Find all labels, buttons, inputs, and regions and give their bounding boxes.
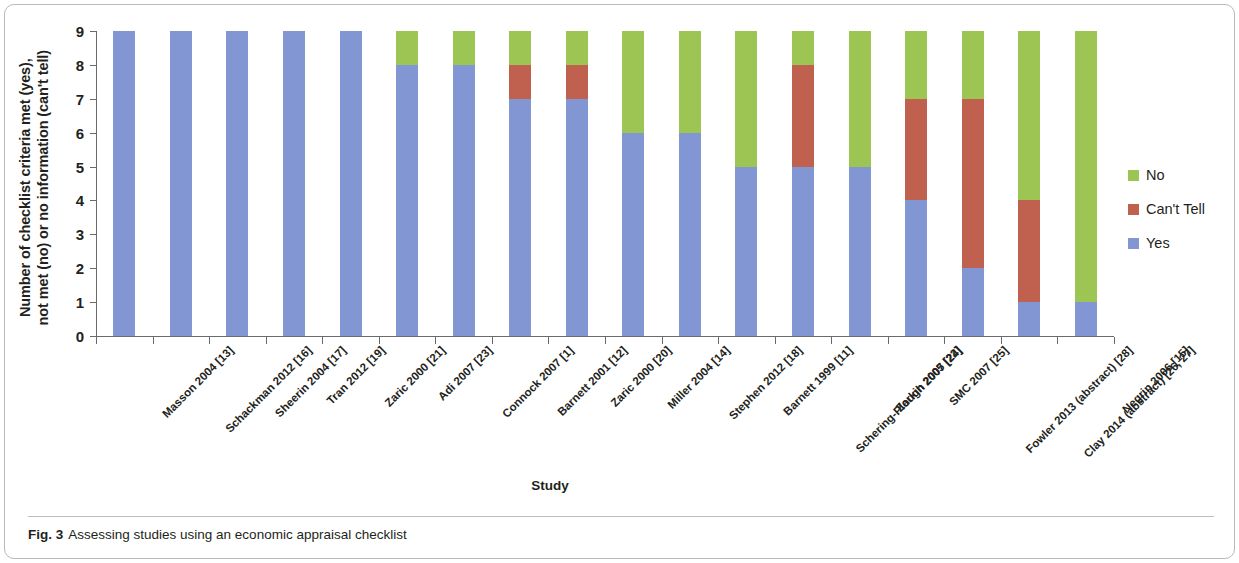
y-axis-tick-label: 1 <box>54 294 84 311</box>
bar-segment <box>1018 31 1040 200</box>
bar-segment <box>679 31 701 133</box>
x-axis-tick <box>492 337 493 344</box>
x-axis-tick <box>435 337 436 344</box>
bar-segment <box>566 65 588 99</box>
bar-segment <box>396 65 418 336</box>
x-axis-tick-labels: Masson 2004 [13]Schackman 2012 [16]Sheer… <box>96 344 1196 484</box>
bar-segment <box>113 31 135 336</box>
bar-column <box>226 31 248 336</box>
bar-segment <box>962 268 984 336</box>
x-axis-tick <box>209 337 210 344</box>
bar-segment <box>1018 200 1040 302</box>
y-axis-title-line2: not met (no) or no information (can't te… <box>35 23 53 353</box>
bar-column <box>905 31 927 336</box>
bar-segment <box>1018 302 1040 336</box>
x-axis-title: Study <box>0 478 1100 493</box>
bar-segment <box>622 31 644 133</box>
x-axis-tick <box>944 337 945 344</box>
y-axis-tick-label: 3 <box>54 226 84 243</box>
x-axis-tick <box>266 337 267 344</box>
bar-column <box>1075 31 1097 336</box>
bar-segment <box>735 167 757 336</box>
legend-label: Can't Tell <box>1146 201 1205 217</box>
legend-item[interactable]: Yes <box>1128 226 1233 260</box>
x-axis-tick <box>322 337 323 344</box>
bar-column <box>1018 31 1040 336</box>
figure-container: Number of checklist criteria met (yes), … <box>0 0 1239 563</box>
x-axis-tick <box>1057 337 1058 344</box>
bar-segment <box>905 200 927 336</box>
x-axis-tick <box>718 337 719 344</box>
bar-column <box>340 31 362 336</box>
bar-column <box>679 31 701 336</box>
caption-label: Fig. 3 <box>28 527 63 542</box>
bar-column <box>113 31 135 336</box>
x-axis-tick-label: Miller 2004 [14] <box>665 344 732 411</box>
x-axis-tick <box>662 337 663 344</box>
legend-swatch-icon <box>1128 170 1139 181</box>
bar-segment <box>905 99 927 201</box>
bar-segment <box>679 133 701 336</box>
bar-segment <box>509 99 531 336</box>
legend-label: Yes <box>1146 235 1170 251</box>
bar-segment <box>962 99 984 268</box>
y-axis-tick-label: 5 <box>54 158 84 175</box>
bar-segment <box>1075 302 1097 336</box>
bar-segment <box>792 31 814 65</box>
x-axis-tick <box>96 337 97 344</box>
x-axis-tick <box>153 337 154 344</box>
bar-segment <box>396 31 418 65</box>
bar-segment <box>566 99 588 336</box>
y-axis-tick-label: 9 <box>54 23 84 40</box>
bar-column <box>792 31 814 336</box>
x-axis-tick <box>775 337 776 344</box>
caption-divider <box>28 516 1214 517</box>
y-axis-tick-label: 6 <box>54 124 84 141</box>
bars-layer <box>96 31 1114 336</box>
bar-segment <box>509 31 531 65</box>
bar-segment <box>509 65 531 99</box>
y-axis-tick-label: 7 <box>54 90 84 107</box>
caption-text: Assessing studies using an economic appr… <box>68 527 406 542</box>
x-axis-tick-label: Zaric 2000 [21] <box>382 344 447 409</box>
bar-column <box>962 31 984 336</box>
bar-segment <box>849 167 871 336</box>
bar-column <box>283 31 305 336</box>
bar-segment <box>340 31 362 336</box>
y-axis-title-line1: Number of checklist criteria met (yes), <box>17 23 35 353</box>
plot-area: Number of checklist criteria met (yes), … <box>0 0 1239 486</box>
bar-segment <box>962 31 984 99</box>
y-axis-tick-label: 4 <box>54 192 84 209</box>
bar-column <box>170 31 192 336</box>
bar-column <box>622 31 644 336</box>
bar-segment <box>453 65 475 336</box>
y-axis-tick-label: 2 <box>54 260 84 277</box>
x-axis-tick <box>1114 337 1115 344</box>
legend-label: No <box>1146 167 1165 183</box>
y-axis-title: Number of checklist criteria met (yes), … <box>17 23 52 353</box>
legend-item[interactable]: No <box>1128 158 1233 192</box>
bar-column <box>453 31 475 336</box>
legend-item[interactable]: Can't Tell <box>1128 192 1233 226</box>
bar-column <box>396 31 418 336</box>
bar-segment <box>792 167 814 336</box>
x-axis-tick <box>605 337 606 344</box>
bar-segment <box>1075 31 1097 302</box>
x-axis-tick-label: Masson 2004 [13] <box>160 344 236 420</box>
legend-swatch-icon <box>1128 204 1139 215</box>
bar-column <box>735 31 757 336</box>
bar-segment <box>735 31 757 167</box>
y-axis-tick-label: 8 <box>54 56 84 73</box>
bar-column <box>566 31 588 336</box>
x-axis-tick <box>548 337 549 344</box>
bar-segment <box>792 65 814 167</box>
legend-swatch-icon <box>1128 238 1139 249</box>
bar-column <box>509 31 531 336</box>
bar-column <box>849 31 871 336</box>
bar-segment <box>283 31 305 336</box>
bar-segment <box>566 31 588 65</box>
bar-segment <box>453 31 475 65</box>
bar-segment <box>905 31 927 99</box>
bar-segment <box>226 31 248 336</box>
bar-segment <box>849 31 871 167</box>
